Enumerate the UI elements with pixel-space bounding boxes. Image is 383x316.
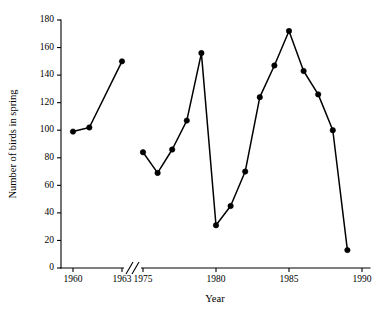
- data-point: [257, 94, 262, 99]
- data-point: [330, 128, 335, 133]
- y-tick-label: 0: [49, 262, 54, 272]
- y-axis-ticks: [57, 20, 61, 268]
- y-tick-label: 80: [45, 152, 55, 162]
- y-tick-label: 40: [45, 207, 55, 217]
- y-tick-label: 140: [40, 69, 55, 79]
- x-axis-title: Year: [205, 293, 225, 304]
- data-point: [301, 68, 306, 73]
- x-tick-label: 1985: [280, 274, 299, 284]
- y-tick-label: 180: [40, 14, 55, 24]
- y-tick-label: 60: [45, 180, 55, 190]
- y-tick-label: 160: [40, 42, 55, 52]
- data-point: [213, 223, 218, 228]
- data-point: [119, 59, 124, 64]
- data-point: [70, 129, 75, 134]
- y-axis-tick-labels: 020406080100120140160180: [40, 14, 55, 272]
- y-tick-label: 20: [45, 235, 55, 245]
- y-axis-title: Number of birds in spring: [7, 89, 18, 199]
- axes: [61, 20, 370, 268]
- x-axis-break-marker: [124, 262, 141, 274]
- series-line-0: [73, 61, 122, 131]
- x-tick-label: 1980: [207, 274, 226, 284]
- data-point: [140, 150, 145, 155]
- data-point: [199, 50, 204, 55]
- y-tick-label: 120: [40, 97, 55, 107]
- x-tick-label: 1963: [113, 274, 132, 284]
- x-tick-label: 1990: [353, 274, 372, 284]
- data-point: [228, 203, 233, 208]
- data-point: [155, 170, 160, 175]
- data-point: [345, 247, 350, 252]
- y-tick-label: 100: [40, 124, 55, 134]
- x-tick-label: 1975: [134, 274, 153, 284]
- data-point: [286, 28, 291, 33]
- series-line-1: [143, 31, 347, 250]
- data-series-group: [70, 28, 350, 252]
- data-point: [87, 125, 92, 130]
- data-point: [316, 92, 321, 97]
- data-point: [170, 147, 175, 152]
- x-axis-ticks: [73, 268, 362, 272]
- data-point: [272, 63, 277, 68]
- bird-population-line-chart: 020406080100120140160180 196019631975198…: [0, 0, 383, 316]
- chart-figure: 020406080100120140160180 196019631975198…: [0, 0, 383, 316]
- x-axis-tick-labels: 196019631975198019851990: [64, 274, 372, 284]
- x-tick-label: 1960: [64, 274, 83, 284]
- data-point: [184, 118, 189, 123]
- data-point: [243, 169, 248, 174]
